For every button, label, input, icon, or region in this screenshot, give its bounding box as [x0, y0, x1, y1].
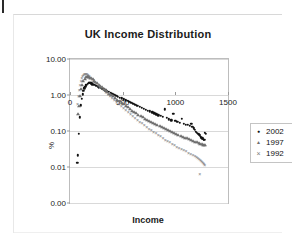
y-axis-tick-label: 0.00 — [50, 199, 66, 208]
y-axis-tick-label: 1.00 — [50, 91, 66, 100]
data-point-2002 — [77, 154, 79, 156]
chart-bottom-edge — [14, 232, 282, 233]
data-point-2002 — [79, 116, 81, 118]
y-axis-tick-mark — [67, 59, 70, 60]
data-point-2002 — [161, 115, 163, 117]
chart-container: UK Income Distribution 10.001.000.100.01… — [13, 14, 282, 233]
chart-page: UK Income Distribution 10.001.000.100.01… — [0, 0, 292, 246]
x-axis-tick-mark — [123, 92, 124, 95]
data-point-1997 — [203, 144, 207, 147]
gridline — [70, 95, 228, 96]
legend-item-1997[interactable]: ▲1997 — [254, 137, 290, 148]
chart-legend[interactable]: ●2002▲1997×1992 — [250, 123, 292, 163]
data-point-2002 — [164, 108, 166, 110]
legend-item-1992[interactable]: ×1992 — [254, 148, 290, 159]
gridline — [70, 59, 228, 60]
y-axis-tick-mark — [67, 203, 70, 204]
data-point-2002 — [76, 162, 78, 164]
x-axis-tick-label: 0 — [68, 98, 72, 107]
data-point-2002 — [81, 98, 83, 100]
y-axis-title: % — [47, 142, 56, 149]
legend-marker-filled-circle-icon: ● — [254, 127, 263, 136]
legend-label: 1997 — [266, 138, 284, 147]
x-axis-tick-mark — [228, 92, 229, 95]
y-axis-tick-mark — [67, 167, 70, 168]
y-axis-tick-mark — [67, 131, 70, 132]
data-point-2002 — [203, 139, 205, 141]
y-axis-tick-label: 10.00 — [46, 55, 66, 64]
x-axis-title: Income — [14, 215, 282, 225]
data-point-2002 — [204, 132, 206, 134]
plot-area: 10.001.000.100.010.00050010001500×××××××… — [69, 58, 229, 204]
legend-label: 1992 — [266, 149, 284, 158]
x-axis-tick-mark — [175, 92, 176, 95]
x-axis-tick-mark — [70, 92, 71, 95]
legend-item-2002[interactable]: ●2002 — [254, 126, 290, 137]
data-point-2002 — [180, 117, 182, 119]
x-axis-tick-label: 1500 — [219, 98, 237, 107]
chart-title: UK Income Distribution — [14, 28, 282, 40]
legend-marker-triangle-icon: ▲ — [254, 138, 263, 147]
data-point-1997 — [76, 112, 80, 115]
data-point-2002 — [178, 122, 180, 124]
y-axis-tick-label: 0.10 — [50, 127, 66, 136]
data-point-2002 — [172, 113, 174, 115]
x-axis-tick-label: 1000 — [166, 98, 184, 107]
legend-label: 2002 — [266, 127, 284, 136]
y-axis-tick-label: 0.01 — [50, 163, 66, 172]
scan-edge-mark — [2, 0, 4, 13]
gridline — [70, 203, 228, 204]
data-point-2002 — [170, 119, 172, 121]
legend-marker-x-icon: × — [254, 149, 263, 158]
data-point-2002 — [77, 132, 79, 134]
